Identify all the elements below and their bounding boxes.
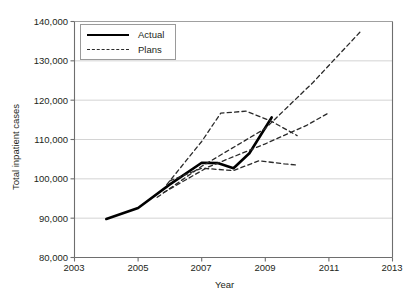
x-tick-label-2013: 2013: [372, 262, 412, 273]
legend-swatch-solid-icon: [87, 30, 129, 40]
x-tick-label-2003: 2003: [54, 262, 94, 273]
x-tick-label-2005: 2005: [118, 262, 158, 273]
x-tick-label-2007: 2007: [181, 262, 221, 273]
series-line-actual: [106, 117, 271, 218]
y-tick-label-140000: 140,000: [10, 16, 68, 27]
legend-swatch-dashed-icon: [87, 45, 129, 55]
legend: Actual Plans: [80, 24, 176, 60]
x-axis-title: Year: [215, 279, 234, 290]
inpatient-cases-line-chart: 140,000 130,000 120,000 110,000 100,000 …: [0, 0, 418, 300]
legend-item-plans: Plans: [87, 44, 162, 55]
y-tick-label-90000: 90,000: [10, 213, 68, 224]
legend-item-actual: Actual: [87, 29, 164, 40]
legend-label-plans: Plans: [138, 44, 162, 55]
x-tick-label-2011: 2011: [309, 262, 349, 273]
y-tick-label-130000: 130,000: [10, 55, 68, 66]
legend-label-actual: Actual: [138, 29, 164, 40]
x-tick-label-2009: 2009: [245, 262, 285, 273]
y-axis-title: Total inpatient cases: [10, 104, 21, 190]
series-line-plan-b-moderate-growth: [164, 113, 329, 193]
